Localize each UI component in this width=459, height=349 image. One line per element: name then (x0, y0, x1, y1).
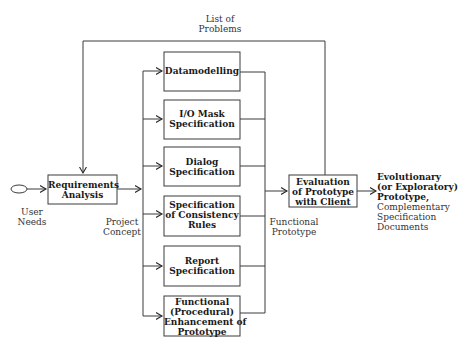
functional-prototype-label: Functional Prototype (266, 217, 322, 237)
evaluation-label: Evaluation of Prototype with Client (289, 177, 357, 207)
start-ellipse (11, 185, 27, 193)
io-mask-label: I/O Mask Specification (164, 109, 240, 129)
output-title: Evolutionary (or Exploratory) Prototype, (377, 172, 458, 202)
datamodelling-label: Datamodelling (164, 66, 240, 76)
functional-label: Functional (Procedural) Enhancement of P… (164, 297, 240, 337)
dialog-label: Dialog Specification (164, 157, 240, 177)
requirements-label: Requirements Analysis (48, 180, 117, 200)
user-needs-label: User Needs (14, 207, 50, 227)
project-concept-label: Project Concept (102, 217, 142, 237)
feedback-label: List of Problems (180, 14, 260, 34)
consistency-label: Specification of Consistency Rules (164, 200, 240, 230)
report-label: Report Specification (164, 256, 240, 276)
output-documents: Complementary Specification Documents (377, 202, 450, 232)
